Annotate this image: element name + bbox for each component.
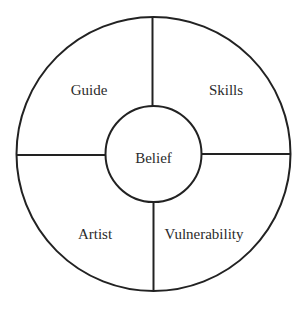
- quadrant-label-top-right: Skills: [209, 82, 243, 98]
- quadrant-label-bottom-left: Artist: [78, 226, 113, 242]
- quadrant-label-bottom-right: Vulnerability: [164, 226, 244, 242]
- center-label: Belief: [135, 150, 172, 166]
- belief-wheel-diagram: Belief Guide Skills Artist Vulnerability: [0, 0, 304, 311]
- quadrant-label-top-left: Guide: [71, 82, 108, 98]
